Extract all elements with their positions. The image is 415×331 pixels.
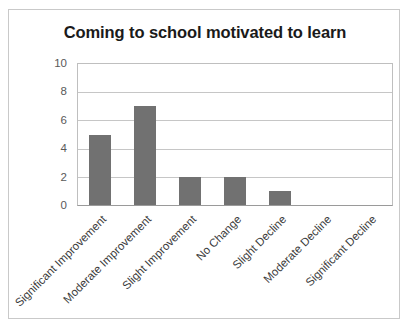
bar-slot-significant-improvement <box>78 64 123 205</box>
y-axis-tick-4: 4 <box>13 143 67 155</box>
x-axis-labels: Significant Improvement Moderate Improve… <box>77 207 393 317</box>
y-axis-tick-10: 10 <box>13 58 67 70</box>
y-axis-tick-8: 8 <box>13 86 67 98</box>
x-axis-label-text-1: Moderate Improvement <box>61 213 154 306</box>
y-axis-tick-6: 6 <box>13 115 67 127</box>
chart-frame: Coming to school motivated to learn 10 8… <box>8 9 400 319</box>
x-axis-label-text-0: Significant Improvement <box>12 213 108 309</box>
y-axis-tick-2: 2 <box>13 172 67 184</box>
bar-slight-decline[interactable] <box>269 191 291 205</box>
y-axis-tick-0: 0 <box>13 200 67 212</box>
bar-significant-improvement[interactable] <box>89 135 111 206</box>
chart-title: Coming to school motivated to learn <box>9 23 401 42</box>
